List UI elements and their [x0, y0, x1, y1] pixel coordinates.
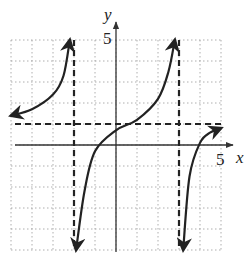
curve-right-branch — [183, 128, 221, 250]
y-tick-label: 5 — [103, 29, 112, 48]
y-axis-label: y — [102, 5, 112, 24]
curve-left-branch — [11, 40, 70, 116]
x-axis-label: x — [235, 148, 244, 167]
graph: y 5 x 5 — [0, 0, 251, 258]
x-tick-label: 5 — [216, 150, 225, 169]
